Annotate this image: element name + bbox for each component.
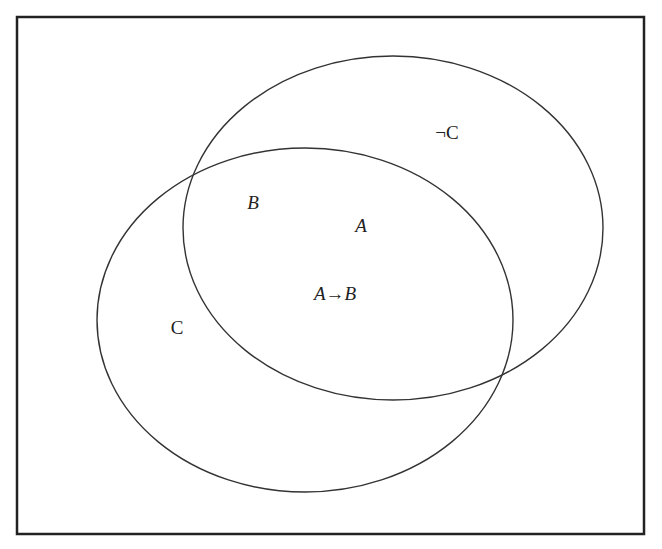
label-not-c: ¬C	[435, 123, 458, 142]
frame-border	[17, 17, 644, 534]
venn-diagram	[0, 0, 662, 549]
left-ellipse	[97, 148, 513, 492]
label-b: B	[247, 193, 259, 212]
label-c: C	[171, 318, 184, 337]
right-ellipse	[183, 56, 603, 400]
label-a-implies-b: A→B	[314, 284, 356, 303]
label-a: A	[355, 216, 367, 235]
